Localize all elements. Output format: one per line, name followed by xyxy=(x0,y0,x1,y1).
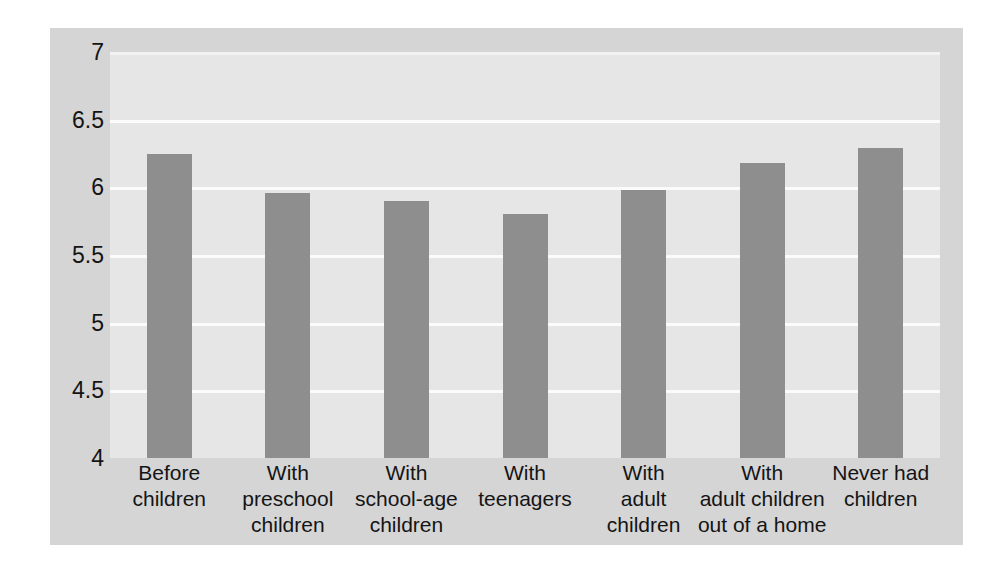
x-axis: Before childrenWith preschool childrenWi… xyxy=(110,458,940,545)
x-axis-category-label: Never had children xyxy=(811,460,950,512)
y-axis-tick-label: 4.5 xyxy=(72,377,104,404)
y-axis-tick-label: 6.5 xyxy=(72,106,104,133)
bar xyxy=(503,214,548,458)
bar xyxy=(858,148,903,458)
gridline xyxy=(110,52,940,55)
y-axis-tick-label: 5 xyxy=(91,309,104,336)
y-axis-tick-label: 7 xyxy=(91,39,104,66)
bar xyxy=(384,201,429,458)
chart-panel: 76.565.554.54 Before childrenWith presch… xyxy=(50,28,963,545)
gridline xyxy=(110,120,940,123)
plot-area xyxy=(110,52,940,458)
bar xyxy=(265,193,310,458)
bar xyxy=(147,154,192,459)
bar xyxy=(621,190,666,458)
y-axis-tick-label: 5.5 xyxy=(72,242,104,269)
y-axis-tick-label: 6 xyxy=(91,174,104,201)
bar xyxy=(740,163,785,458)
gridline xyxy=(110,187,940,190)
chart-screenshot: 76.565.554.54 Before childrenWith presch… xyxy=(0,0,1004,571)
